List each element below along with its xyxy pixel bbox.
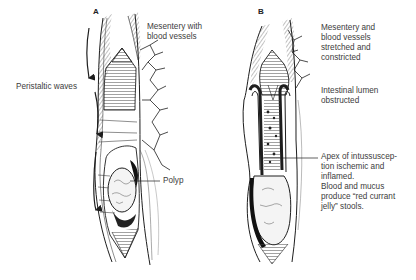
label-mesentery-a: Mesentery with blood vessels [147,22,202,42]
panel-a-drawing [87,12,170,265]
panel-b-drawing [243,18,318,264]
label-intestinal-lumen: Intestinal lumen obstructed [321,86,378,106]
label-apex: Apex of intussuscep- tion ischemic and i… [321,152,397,212]
label-polyp: Polyp [163,176,183,186]
label-peristaltic-waves: Peristaltic waves [16,82,77,92]
panel-a-letter: A [93,7,99,16]
label-mesentery-b: Mesentery and blood vessels stretched an… [321,23,375,63]
peristalsis-arrows [87,28,99,210]
panel-b-letter: B [258,7,264,16]
